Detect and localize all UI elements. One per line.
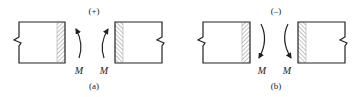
beam-segment-left-b <box>198 22 250 63</box>
panel-b: (–) M M (b) <box>198 6 347 91</box>
beam-segment-right-a <box>115 22 164 63</box>
hatched-cut-face <box>242 22 250 63</box>
caption-a: (a) <box>89 81 99 91</box>
panel-a: (+) M M (a) <box>14 6 164 91</box>
moment-label-left-b: M <box>257 65 267 76</box>
caption-b: (b) <box>271 81 282 91</box>
beam-segment-left-a <box>14 22 65 63</box>
moment-sign-diagram: (+) M M (a) (–) M M (b) <box>0 0 364 97</box>
beam-segment-right-b <box>298 22 347 63</box>
moment-arrow-right-b <box>285 24 291 58</box>
moment-label-right-a: M <box>99 65 109 76</box>
sign-label-negative: (–) <box>271 6 282 16</box>
moment-arrow-left-a <box>76 29 81 58</box>
moment-label-right-b: M <box>282 65 292 76</box>
moment-arrow-left-b <box>259 24 265 58</box>
hatched-cut-face <box>115 22 123 63</box>
moment-arrow-right-a <box>102 29 108 58</box>
hatched-cut-face <box>298 22 306 63</box>
sign-label-positive: (+) <box>88 6 99 16</box>
hatched-cut-face <box>57 22 65 63</box>
moment-label-left-a: M <box>74 65 84 76</box>
